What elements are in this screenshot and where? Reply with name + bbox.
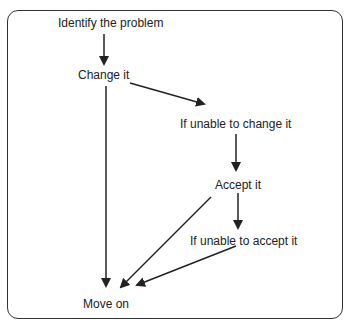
node-move-on: Move on [83, 297, 129, 311]
node-change-it: Change it [78, 68, 129, 82]
flow-arrows [0, 0, 352, 332]
node-unable-change: If unable to change it [180, 117, 291, 131]
node-accept-it: Accept it [215, 178, 261, 192]
arrow-unable-accept-to-move-on [137, 246, 236, 285]
arrow-change-to-unable-change [130, 83, 204, 104]
node-identify-problem: Identify the problem [58, 16, 163, 30]
node-unable-accept: If unable to accept it [190, 234, 297, 248]
